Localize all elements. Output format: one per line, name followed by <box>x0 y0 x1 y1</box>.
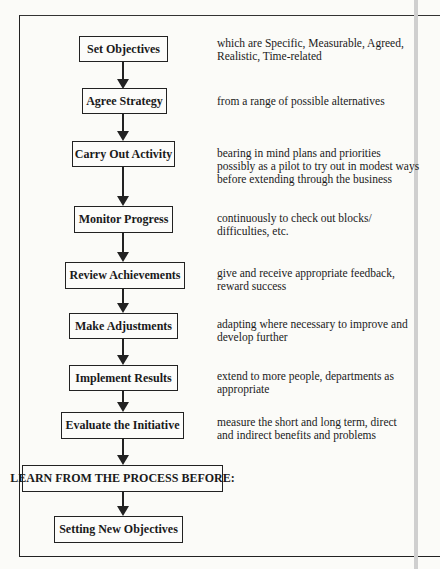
step-evaluate-initiative: Evaluate the Initiative <box>61 412 184 439</box>
step-agree-strategy: Agree Strategy <box>82 88 167 114</box>
arrow-down-icon <box>117 402 129 412</box>
connector <box>122 491 124 506</box>
step-description: from a range of possible alternatives <box>217 95 385 108</box>
step-make-adjustments: Make Adjustments <box>69 313 178 339</box>
connector <box>122 288 124 303</box>
step-set-objectives: Set Objectives <box>79 36 168 62</box>
step-description: extend to more people, departments as ap… <box>217 370 394 396</box>
step-label: Set Objectives <box>87 42 160 57</box>
connector <box>122 438 124 455</box>
arrow-down-icon <box>117 506 129 516</box>
step-label: Monitor Progress <box>79 212 169 227</box>
step-review-achievements: Review Achievements <box>65 262 185 289</box>
connector <box>122 166 124 196</box>
connector <box>122 338 124 355</box>
step-label: Evaluate the Initiative <box>66 418 180 433</box>
step-label: Setting New Objectives <box>59 522 178 537</box>
connector <box>122 113 124 131</box>
arrow-down-icon <box>117 131 129 141</box>
step-description: bearing in mind plans and priorities pos… <box>217 147 419 186</box>
arrow-down-icon <box>117 252 129 262</box>
step-description: adapting where necessary to improve and … <box>217 318 408 344</box>
step-label: LEARN FROM THE PROCESS BEFORE: <box>10 471 234 486</box>
step-description: measure the short and long term, direct … <box>217 416 397 442</box>
connector <box>122 390 124 402</box>
step-label: Carry Out Activity <box>75 147 172 162</box>
page-edge <box>414 0 418 569</box>
step-learn-from-process: LEARN FROM THE PROCESS BEFORE: <box>22 465 223 492</box>
step-label: Make Adjustments <box>75 319 172 334</box>
step-monitor-progress: Monitor Progress <box>74 206 173 233</box>
arrow-down-icon <box>117 455 129 465</box>
step-label: Review Achievements <box>70 268 181 283</box>
step-description: give and receive appropriate feedback, r… <box>217 267 395 293</box>
step-description: continuously to check out blocks/ diffic… <box>217 212 372 238</box>
step-label: Implement Results <box>75 371 171 386</box>
step-carry-out-activity: Carry Out Activity <box>72 141 175 167</box>
arrow-down-icon <box>117 355 129 365</box>
step-implement-results: Implement Results <box>69 365 178 391</box>
step-label: Agree Strategy <box>86 94 163 109</box>
arrow-down-icon <box>117 196 129 206</box>
arrow-down-icon <box>117 303 129 313</box>
connector <box>122 61 124 79</box>
connector <box>122 232 124 252</box>
step-setting-new-objectives: Setting New Objectives <box>54 516 183 543</box>
step-description: which are Specific, Measurable, Agreed, … <box>217 37 404 63</box>
